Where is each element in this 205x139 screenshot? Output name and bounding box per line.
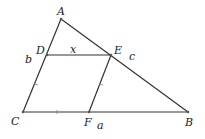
side-label-b: b [25, 53, 32, 66]
point-C [22, 111, 25, 114]
point-B [187, 111, 190, 114]
side-label-a: a [97, 119, 104, 132]
segment-AB [61, 19, 188, 112]
point-F [88, 111, 91, 114]
side-label-c: c [129, 50, 135, 63]
label-F: F [83, 116, 92, 129]
point-D [46, 54, 49, 57]
side-label-x: x [70, 43, 77, 56]
label-E: E [113, 44, 122, 57]
label-A: A [56, 5, 65, 18]
point-E [110, 54, 113, 57]
label-B: B [184, 116, 193, 129]
triangle-diagram: A D E C F B x b c a [0, 0, 205, 139]
label-C: C [11, 115, 20, 128]
label-D: D [35, 44, 45, 57]
segment-EF [89, 55, 111, 112]
point-A [60, 18, 63, 21]
